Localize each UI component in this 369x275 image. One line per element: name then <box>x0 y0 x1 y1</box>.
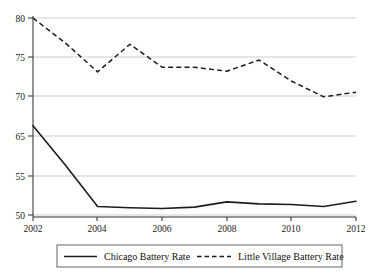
x-tick-label-2006: 2006 <box>153 224 172 234</box>
x-tick-label-2008: 2008 <box>218 224 237 234</box>
y-tick-label-50: 50 <box>16 211 26 221</box>
legend-label-chicago: Chicago Battery Rate <box>104 251 191 262</box>
series-line-chicago-battery-rate <box>33 126 356 209</box>
series-line-little-village-battery-rate <box>33 18 356 97</box>
x-tick-label-2010: 2010 <box>282 224 301 234</box>
x-tickmarks <box>33 217 356 221</box>
x-tick-label-2002: 2002 <box>24 224 43 234</box>
y-tick-label-70: 70 <box>16 92 26 102</box>
y-tick-label-80: 80 <box>16 14 26 24</box>
y-tick-labels: 80 75 70 65 55 50 <box>16 14 26 221</box>
y-tickmarks <box>28 18 33 215</box>
y-tick-label-65: 65 <box>16 132 26 142</box>
x-tick-labels: 2002 2004 2006 2008 2010 2012 <box>24 224 366 234</box>
chart-legend: Chicago Battery Rate Little Village Batt… <box>57 245 344 267</box>
legend-label-little-village: Little Village Battery Rate <box>238 251 344 262</box>
chart-svg: 80 75 70 65 55 50 2002 2004 2006 2008 20… <box>0 0 369 275</box>
y-tick-label-75: 75 <box>16 53 26 63</box>
line-chart: 80 75 70 65 55 50 2002 2004 2006 2008 20… <box>0 0 369 275</box>
y-tick-label-55: 55 <box>16 172 26 182</box>
x-tick-label-2004: 2004 <box>88 224 107 234</box>
x-tick-label-2012: 2012 <box>347 224 366 234</box>
